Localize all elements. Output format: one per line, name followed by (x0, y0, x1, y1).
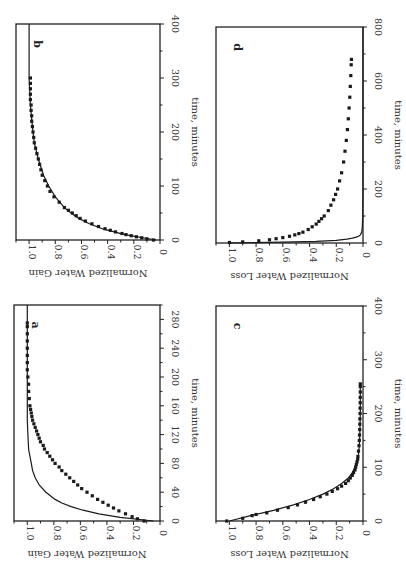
y-axis-label: Normalized Water Loss (230, 271, 348, 282)
x-tick-label: 80 (170, 457, 181, 469)
x-axis-label: time, minutes (190, 378, 201, 448)
data-point (345, 139, 348, 142)
model-curve (27, 305, 153, 521)
x-axis-label: time, minutes (393, 379, 404, 449)
data-point (35, 429, 38, 432)
data-point (131, 515, 134, 518)
x-tick-label: 400 (373, 297, 384, 315)
data-point (48, 455, 51, 458)
x-tick-label: 800 (373, 18, 384, 36)
x-tick-label: 120 (170, 426, 181, 444)
data-point (107, 504, 110, 507)
data-point (293, 233, 296, 236)
x-tick-label: 0 (170, 518, 181, 524)
data-point (301, 231, 304, 234)
x-tick-label: 100 (170, 177, 181, 195)
y-tick-label: 0.8 (52, 525, 63, 540)
data-point (350, 58, 353, 61)
panel-d-water-loss: 0200400600800time, minutes00.20.40.60.81… (216, 18, 404, 282)
model-curve (229, 27, 363, 243)
plot-frame (16, 24, 160, 240)
y-tick-label: 1.0 (25, 525, 36, 540)
y-tick-label: 0 (158, 530, 169, 536)
plot-frame (14, 305, 160, 521)
y-tick-label: 0.2 (334, 525, 345, 540)
y-tick-label: 0.6 (78, 525, 89, 540)
data-point (346, 128, 349, 131)
y-tick-label: 1.0 (227, 525, 238, 540)
y-axis-label: Normalized Water Gain (28, 268, 148, 279)
x-tick-label: 200 (170, 123, 181, 141)
data-point (96, 498, 99, 501)
data-point (85, 491, 88, 494)
x-tick-label: 160 (170, 397, 181, 415)
data-point (334, 193, 337, 196)
y-tick-label: 0.2 (131, 525, 142, 540)
data-point (124, 512, 127, 515)
data-point (348, 96, 351, 99)
y-tick-label: 0.4 (105, 525, 116, 540)
y-axis-label: Normalized Water Gain (27, 549, 147, 560)
data-point (347, 117, 350, 120)
data-point (91, 494, 94, 497)
data-point (76, 483, 79, 486)
x-tick-label: 600 (373, 72, 384, 90)
data-point (281, 236, 284, 239)
y-tick-label: 0.6 (281, 247, 292, 262)
figure: 0100200300400time, minutes00.20.40.60.81… (0, 0, 406, 564)
data-point (311, 225, 314, 228)
data-point (101, 501, 104, 504)
y-tick-label: 0.4 (308, 525, 319, 540)
data-point (336, 187, 339, 190)
data-point (275, 237, 278, 240)
y-tick-label: 0 (361, 252, 372, 258)
x-tick-label: 240 (170, 339, 181, 357)
data-point (350, 63, 353, 66)
plot-frame (216, 306, 363, 521)
data-point (288, 235, 291, 238)
panel-label: d (231, 43, 244, 51)
data-point (28, 404, 31, 407)
y-tick-label: 0.8 (254, 525, 265, 540)
data-point (112, 506, 115, 509)
data-point (343, 150, 346, 153)
y-axis-label: Normalized Water Loss (230, 549, 348, 560)
panel-c-water-loss: 0100200300400time, minutes00.20.40.60.81… (216, 297, 404, 560)
x-tick-label: 100 (373, 458, 384, 476)
data-point (30, 415, 33, 418)
x-axis-label: time, minutes (393, 100, 404, 170)
data-point (268, 238, 271, 241)
data-point (60, 469, 63, 472)
x-tick-label: 200 (373, 180, 384, 198)
data-point (36, 433, 39, 436)
y-tick-label: 1.0 (27, 244, 38, 259)
x-tick-label: 400 (170, 15, 181, 33)
y-tick-label: 0.6 (281, 525, 292, 540)
data-point (42, 444, 45, 447)
plot-frame (216, 27, 363, 243)
x-tick-label: 0 (373, 240, 384, 246)
x-tick-label: 0 (170, 237, 181, 243)
data-point (30, 411, 33, 414)
data-point (51, 458, 54, 461)
x-tick-label: 300 (373, 351, 384, 369)
data-point (46, 451, 49, 454)
data-point (297, 232, 300, 235)
data-point (58, 465, 61, 468)
data-point (117, 509, 120, 512)
data-point (28, 397, 31, 400)
x-tick-label: 300 (170, 69, 181, 87)
y-tick-label: 0.2 (334, 247, 345, 262)
data-point (336, 487, 339, 490)
y-tick-label: 1.0 (227, 247, 238, 262)
y-tick-label: 0.2 (132, 244, 143, 259)
model-curve (229, 387, 360, 521)
x-tick-label: 40 (170, 486, 181, 498)
x-axis-label: time, minutes (190, 97, 201, 167)
data-point (348, 106, 351, 109)
data-point (340, 171, 343, 174)
data-point (332, 198, 335, 201)
x-tick-label: 400 (373, 126, 384, 144)
y-tick-label: 0.6 (79, 244, 90, 259)
data-point (340, 485, 343, 488)
